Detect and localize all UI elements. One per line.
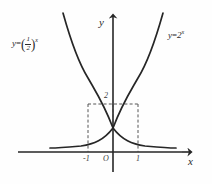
x-tick-label-one: 1 xyxy=(136,154,140,163)
curve-label-half-power-x: y=(12)x xyxy=(12,36,38,52)
right-paren-icon: ) xyxy=(31,35,35,53)
curve-label-right-exponent: x xyxy=(182,29,185,35)
curve-label-left-exponent: x xyxy=(35,37,38,43)
curve-half-power-x xyxy=(63,13,176,148)
curve-label-two-power-x: y=2x xyxy=(168,29,184,40)
y-value-label-two: 2 xyxy=(104,91,108,100)
x-tick-label-neg-one: -1 xyxy=(83,154,90,163)
left-paren-icon: ( xyxy=(21,35,25,53)
origin-label: O xyxy=(103,154,109,163)
curve-two-power-x xyxy=(50,13,163,148)
y-axis-label: y xyxy=(99,16,104,28)
x-axis-label: x xyxy=(188,155,193,167)
exponential-functions-figure: y x O -1 1 2 y=(12)x y=2x xyxy=(0,0,212,184)
